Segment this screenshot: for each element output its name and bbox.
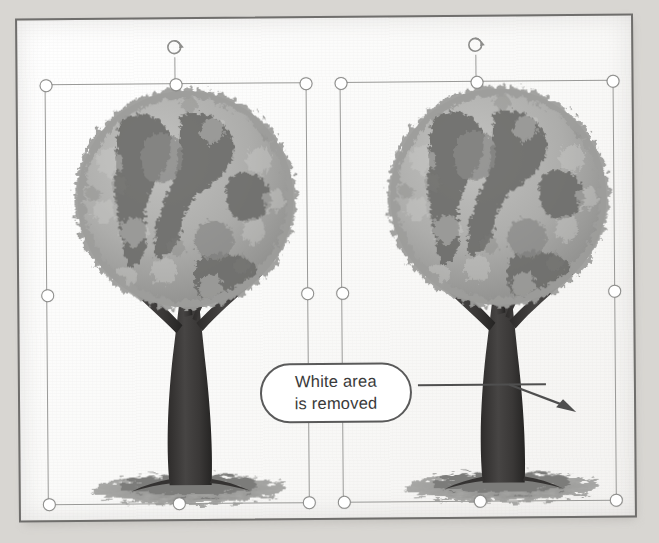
callout-line-1: White area bbox=[295, 371, 377, 393]
screenshot-stage: White area is removed bbox=[0, 0, 659, 543]
callout-arrow bbox=[17, 16, 635, 521]
arrow-icon bbox=[509, 384, 576, 413]
callout-bubble[interactable]: White area is removed bbox=[260, 362, 412, 423]
callout-line-2: is removed bbox=[295, 393, 378, 415]
scanned-page: White area is removed bbox=[15, 14, 637, 523]
